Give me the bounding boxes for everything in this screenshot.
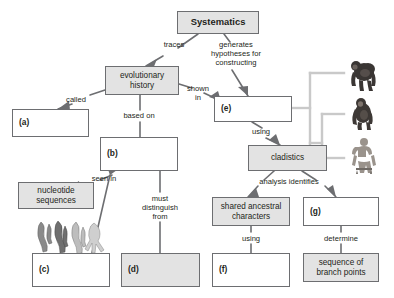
edge-label-traces: traces <box>152 40 196 49</box>
node-label: evolutionary history <box>120 71 164 90</box>
edge-label-using-f: using <box>234 234 268 243</box>
chimpanzee-figure <box>350 97 378 130</box>
node-label: Systematics <box>191 17 246 28</box>
edge-label-seen-in: seen in <box>84 174 124 183</box>
homologous-limbs-illustration <box>36 220 110 254</box>
node-g[interactable]: (g) <box>303 197 379 226</box>
node-sequence[interactable]: sequence of branch points <box>303 253 379 282</box>
node-label: (f) <box>219 265 227 275</box>
node-b[interactable]: (b) <box>100 137 178 171</box>
node-d[interactable]: (d) <box>121 253 200 287</box>
node-label: cladistics <box>271 153 304 162</box>
edge-label-determine: determine <box>315 234 367 243</box>
edge-label-analysis: analysis identifies <box>248 177 330 186</box>
node-label: (a) <box>19 118 29 128</box>
edge-label-using-e: using <box>244 127 278 136</box>
edge-label-generates: generates hypotheses for constructing <box>201 40 271 67</box>
node-a[interactable]: (a) <box>12 109 89 137</box>
node-e[interactable]: (e) <box>214 96 292 122</box>
human-figure <box>350 137 378 174</box>
node-label: sequence of branch points <box>316 258 365 277</box>
gorilla-figure <box>348 57 380 93</box>
concept-map-canvas: Systematicsevolutionary history(a)(b)(e)… <box>0 0 394 298</box>
edge-label-must: must distinguish from <box>133 194 187 221</box>
node-nucleotide[interactable]: nucleotide sequences <box>18 182 94 209</box>
edge-label-called: called <box>58 95 94 104</box>
node-shared[interactable]: shared ancestral characters <box>212 197 290 226</box>
node-label: shared ancestral characters <box>221 202 282 221</box>
edge-label-shown-in: shown in <box>181 84 215 102</box>
node-evolutionary[interactable]: evolutionary history <box>105 66 179 95</box>
node-label: (d) <box>128 265 139 275</box>
edge-label-based-on: based on <box>114 111 164 120</box>
node-c[interactable]: (c) <box>32 253 110 287</box>
node-cladistics[interactable]: cladistics <box>248 145 327 171</box>
node-label: (b) <box>107 149 118 159</box>
node-label: (e) <box>221 104 231 114</box>
node-label: (c) <box>39 265 49 275</box>
node-systematics[interactable]: Systematics <box>177 11 259 34</box>
node-label: (g) <box>310 207 321 217</box>
node-f[interactable]: (f) <box>212 253 290 287</box>
node-label: nucleotide sequences <box>36 186 76 205</box>
